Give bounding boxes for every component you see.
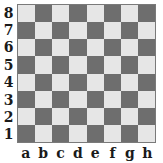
square-d4[interactable] xyxy=(69,74,86,91)
square-d1[interactable] xyxy=(69,125,86,142)
square-a3[interactable] xyxy=(18,91,35,108)
square-c3[interactable] xyxy=(52,91,69,108)
square-g2[interactable] xyxy=(121,108,138,125)
square-a1[interactable] xyxy=(18,125,35,142)
square-c5[interactable] xyxy=(52,56,69,73)
rank-label: 6 xyxy=(0,39,17,56)
square-c8[interactable] xyxy=(52,5,69,22)
square-a5[interactable] xyxy=(18,56,35,73)
square-a8[interactable] xyxy=(18,5,35,22)
square-e7[interactable] xyxy=(87,22,104,39)
square-d8[interactable] xyxy=(69,5,86,22)
square-a2[interactable] xyxy=(18,108,35,125)
square-f6[interactable] xyxy=(104,39,121,56)
rank-label: 3 xyxy=(0,91,17,108)
file-label: d xyxy=(69,143,86,163)
square-b2[interactable] xyxy=(35,108,52,125)
square-a6[interactable] xyxy=(18,39,35,56)
rank-label: 5 xyxy=(0,56,17,73)
square-e6[interactable] xyxy=(87,39,104,56)
square-f3[interactable] xyxy=(104,91,121,108)
square-d2[interactable] xyxy=(69,108,86,125)
square-f5[interactable] xyxy=(104,56,121,73)
file-label: h xyxy=(139,143,156,163)
rank-label: 1 xyxy=(0,126,17,143)
square-e1[interactable] xyxy=(87,125,104,142)
rank-label: 7 xyxy=(0,21,17,38)
square-h6[interactable] xyxy=(138,39,155,56)
square-c2[interactable] xyxy=(52,108,69,125)
file-label: a xyxy=(17,143,34,163)
square-b4[interactable] xyxy=(35,74,52,91)
square-b6[interactable] xyxy=(35,39,52,56)
file-label: f xyxy=(104,143,121,163)
square-g3[interactable] xyxy=(121,91,138,108)
square-h7[interactable] xyxy=(138,22,155,39)
square-e5[interactable] xyxy=(87,56,104,73)
square-h1[interactable] xyxy=(138,125,155,142)
chess-board xyxy=(17,4,156,143)
square-a7[interactable] xyxy=(18,22,35,39)
square-d3[interactable] xyxy=(69,91,86,108)
square-g7[interactable] xyxy=(121,22,138,39)
square-e8[interactable] xyxy=(87,5,104,22)
square-h5[interactable] xyxy=(138,56,155,73)
file-label: e xyxy=(87,143,104,163)
rank-label: 2 xyxy=(0,108,17,125)
square-g5[interactable] xyxy=(121,56,138,73)
square-b1[interactable] xyxy=(35,125,52,142)
square-c4[interactable] xyxy=(52,74,69,91)
square-c7[interactable] xyxy=(52,22,69,39)
rank-label: 8 xyxy=(0,4,17,21)
square-c1[interactable] xyxy=(52,125,69,142)
square-b7[interactable] xyxy=(35,22,52,39)
file-label: b xyxy=(34,143,51,163)
square-h3[interactable] xyxy=(138,91,155,108)
square-g4[interactable] xyxy=(121,74,138,91)
file-label: c xyxy=(52,143,69,163)
square-h4[interactable] xyxy=(138,74,155,91)
rank-label: 4 xyxy=(0,74,17,91)
square-d7[interactable] xyxy=(69,22,86,39)
square-g8[interactable] xyxy=(121,5,138,22)
square-f7[interactable] xyxy=(104,22,121,39)
square-h2[interactable] xyxy=(138,108,155,125)
square-d5[interactable] xyxy=(69,56,86,73)
file-labels: a b c d e f g h xyxy=(17,143,156,163)
square-f2[interactable] xyxy=(104,108,121,125)
square-e3[interactable] xyxy=(87,91,104,108)
rank-labels: 8 7 6 5 4 3 2 1 xyxy=(0,4,17,143)
square-b8[interactable] xyxy=(35,5,52,22)
square-f1[interactable] xyxy=(104,125,121,142)
file-label: g xyxy=(121,143,138,163)
square-b5[interactable] xyxy=(35,56,52,73)
square-h8[interactable] xyxy=(138,5,155,22)
square-e2[interactable] xyxy=(87,108,104,125)
square-b3[interactable] xyxy=(35,91,52,108)
square-c6[interactable] xyxy=(52,39,69,56)
square-a4[interactable] xyxy=(18,74,35,91)
square-d6[interactable] xyxy=(69,39,86,56)
square-f8[interactable] xyxy=(104,5,121,22)
square-f4[interactable] xyxy=(104,74,121,91)
square-e4[interactable] xyxy=(87,74,104,91)
square-g1[interactable] xyxy=(121,125,138,142)
square-g6[interactable] xyxy=(121,39,138,56)
